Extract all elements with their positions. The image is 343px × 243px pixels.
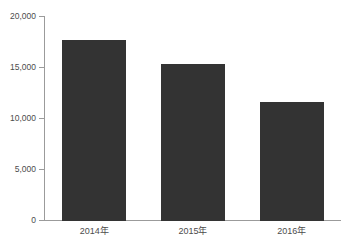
y-axis-tick-label: 20,000 — [0, 12, 36, 21]
y-axis-tick-label: 10,000 — [0, 114, 36, 123]
x-axis-tick-label: 2014年 — [45, 227, 144, 236]
y-axis-tick-label: 5,000 — [0, 165, 36, 174]
bar-2016年 — [260, 102, 324, 221]
bar-2015年 — [161, 64, 225, 221]
bar-chart: 05,00010,00015,00020,000 2014年2015年2016年 — [0, 0, 343, 243]
y-axis-tick-label: 15,000 — [0, 63, 36, 72]
x-axis-tick-label: 2016年 — [242, 227, 341, 236]
bar-2014年 — [62, 40, 126, 221]
plot-area — [45, 16, 341, 221]
y-axis-tick-label: 0 — [0, 216, 36, 225]
x-axis-tick-label: 2015年 — [144, 227, 243, 236]
